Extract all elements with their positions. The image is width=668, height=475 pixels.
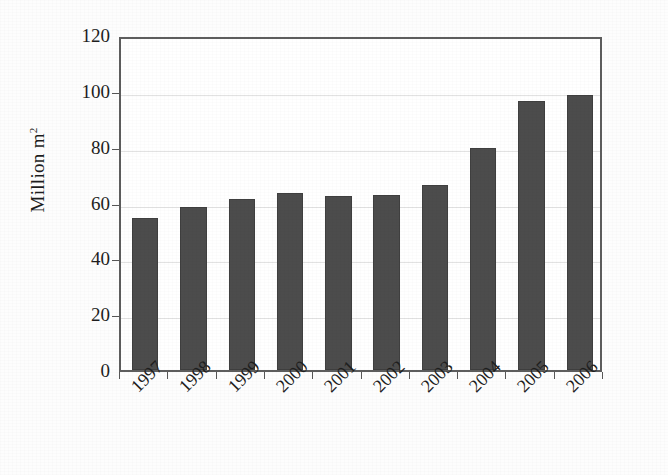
bar — [373, 195, 399, 370]
x-axis-tick-mark — [457, 372, 458, 379]
bar — [567, 95, 593, 370]
bar — [277, 193, 303, 370]
y-axis-title-text: Million m — [27, 133, 48, 212]
y-axis-title: Million m2 — [27, 90, 57, 250]
gridline — [121, 95, 600, 96]
bar — [180, 207, 206, 370]
bar — [229, 199, 255, 370]
y-axis-tick-label: 40 — [66, 248, 110, 270]
x-axis-tick-mark — [167, 372, 168, 379]
bar — [470, 148, 496, 370]
bar — [422, 185, 448, 370]
y-axis-tick-labels: 020406080100120 — [55, 37, 110, 372]
y-axis-tick-mark — [112, 149, 119, 150]
y-axis-tick-mark — [112, 93, 119, 94]
y-axis-tick-label: 80 — [66, 137, 110, 159]
x-axis-tick-mark — [409, 372, 410, 379]
chart-figure: Million m2 020406080100120 1997199819992… — [0, 0, 668, 475]
x-axis-tick-mark — [216, 372, 217, 379]
x-axis-tick-mark — [602, 372, 603, 379]
y-axis-tick-label: 20 — [66, 304, 110, 326]
x-axis-tick-mark — [361, 372, 362, 379]
bar — [132, 218, 158, 370]
x-axis-tick-mark — [312, 372, 313, 379]
y-axis-title-superscript: 2 — [27, 127, 39, 133]
y-axis-tick-mark — [112, 205, 119, 206]
x-axis-tick-mark — [119, 372, 120, 379]
y-axis-tick-label: 120 — [66, 25, 110, 47]
y-axis-tick-mark — [112, 316, 119, 317]
y-axis-tick-label: 0 — [66, 360, 110, 382]
y-axis-tick-mark — [112, 260, 119, 261]
x-axis-tick-mark — [264, 372, 265, 379]
plot-area — [119, 37, 602, 372]
x-axis-tick-mark — [554, 372, 555, 379]
y-axis-tick-label: 60 — [66, 193, 110, 215]
bar — [518, 101, 544, 370]
bar — [325, 196, 351, 370]
y-axis-tick-label: 100 — [66, 81, 110, 103]
x-axis-tick-mark — [505, 372, 506, 379]
